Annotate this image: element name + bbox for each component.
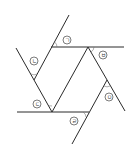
label-a: ㄱ (63, 36, 71, 44)
svg-text:ㅂ: ㅂ (101, 52, 106, 58)
angle-diagram: ㄱ ㄴ ㄷ ㄹ ㅁ ㅂ (0, 0, 135, 164)
angle-arc-d (83, 112, 86, 117)
angle-arc-f (91, 47, 94, 52)
label-e: ㅁ (105, 93, 113, 101)
svg-text:ㅁ: ㅁ (107, 94, 112, 100)
svg-text:ㄱ: ㄱ (65, 37, 70, 43)
svg-text:ㄷ: ㄷ (35, 101, 40, 107)
angle-arc-a (55, 42, 58, 47)
svg-text:ㄴ: ㄴ (32, 58, 37, 64)
angle-arc-b (31, 74, 37, 75)
label-d: ㄹ (70, 117, 78, 125)
middle-diagonal (52, 47, 88, 112)
label-f: ㅂ (99, 51, 107, 59)
label-c: ㄷ (33, 100, 41, 108)
label-b: ㄴ (30, 57, 38, 65)
svg-text:ㄹ: ㄹ (72, 118, 77, 124)
angle-arc-e (104, 86, 110, 87)
